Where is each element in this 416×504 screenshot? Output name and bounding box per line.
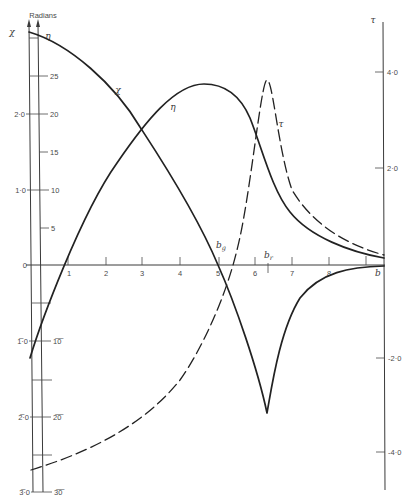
tau-curve-label: τ: [279, 119, 285, 129]
chi-curve: [29, 32, 384, 413]
scattering-diagram: Radians χ η 2·0 1·0 0 1̅·0 2̅·0 3̅·0 25 …: [0, 0, 416, 504]
curves: χ η τ: [29, 32, 384, 470]
b-r-label: br: [264, 250, 274, 262]
chi-tick-label: 3̅·0: [19, 488, 30, 497]
eta-tick-label: 1̅0̅: [53, 337, 64, 346]
chi-axis-symbol: χ: [8, 27, 15, 37]
b-end-label: b: [375, 268, 381, 278]
eta-axis: [38, 24, 43, 492]
radians-label: Radians: [29, 11, 57, 20]
chi-axis: [29, 24, 33, 492]
b-g-label: bg: [216, 240, 226, 252]
chi-tick-label: 2̅·0: [18, 413, 29, 422]
tau-axis-line: [383, 22, 385, 490]
eta-curve-label: η: [170, 102, 176, 112]
eta-curve: [30, 84, 384, 358]
eta-tick-label: 2̅0̅: [53, 413, 64, 422]
b-axis: 1 2 3 4 5 6 7 8 bg br b: [26, 240, 385, 278]
chi-tick-label: 2·0: [14, 110, 25, 119]
eta-tick-label: 15: [50, 148, 58, 157]
tau-tick-label: 4·0: [387, 68, 398, 77]
chi-axis-arrow-icon: [27, 19, 31, 27]
eta-axis-arrow-icon: [36, 19, 40, 27]
eta-tick-label: 3̅0̅: [54, 488, 65, 497]
chi-curve-label: χ: [114, 85, 121, 95]
eta-tick-label: 20: [50, 110, 58, 119]
b-tick-label: 2: [104, 269, 108, 278]
b-tick-label: 4: [178, 269, 182, 278]
eta-tick-label: 5: [51, 224, 55, 233]
b-tick-label: 7: [290, 269, 294, 278]
eta-tick-label: 10: [51, 186, 59, 195]
left-axes: Radians χ η 2·0 1·0 0 1̅·0 2̅·0 3̅·0 25 …: [8, 11, 65, 497]
b-tick-label: 3: [140, 269, 144, 278]
tau-tick-label: 2·0: [387, 164, 398, 173]
tau-tick-label: -2·0: [388, 354, 401, 363]
b-tick-label: 6: [253, 269, 257, 278]
b-g-sub: g: [222, 244, 226, 252]
b-r-sub: r: [270, 254, 274, 262]
tau-axis-symbol: τ: [371, 15, 377, 25]
tau-tick-label: -4·0: [388, 448, 401, 457]
chi-tick-label: 1·0: [15, 186, 26, 195]
chi-tick-label: 1̅·0: [17, 337, 28, 346]
b-tick-label: 1: [67, 269, 71, 278]
eta-tick-label: 25: [50, 72, 58, 81]
